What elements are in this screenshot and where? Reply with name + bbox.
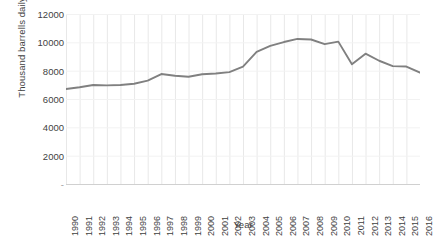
y-tick-label: 10000 bbox=[38, 37, 64, 48]
grid-lines bbox=[66, 14, 420, 184]
x-axis-line bbox=[66, 184, 420, 185]
y-origin-tick-label: - bbox=[61, 179, 64, 190]
y-axis-title: Thousand barrells daily bbox=[16, 0, 27, 113]
x-axis-title: Year bbox=[66, 219, 420, 230]
plot-area bbox=[66, 14, 420, 184]
y-tick-label: 12000 bbox=[38, 9, 64, 20]
y-tick-label: 4000 bbox=[43, 122, 64, 133]
plot-svg bbox=[66, 14, 420, 184]
y-tick-label: 8000 bbox=[43, 65, 64, 76]
x-axis-tick-labels: 1990199119921993199419951996199719981999… bbox=[66, 186, 420, 220]
y-axis-tick-labels: 20004000600080001000012000- bbox=[28, 0, 64, 238]
y-tick-label: 6000 bbox=[43, 94, 64, 105]
x-tick-label: 2016 bbox=[424, 216, 434, 236]
line-chart: Thousand barrells daily 2000400060008000… bbox=[0, 0, 437, 238]
y-tick-label: 2000 bbox=[43, 150, 64, 161]
